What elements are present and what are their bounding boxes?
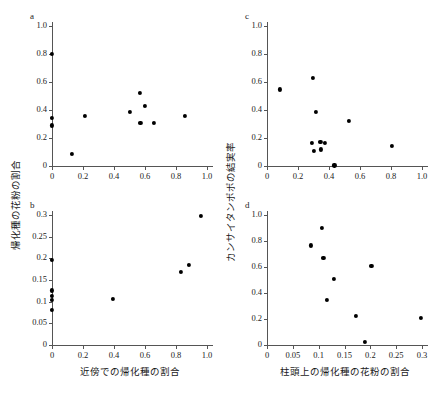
data-point [325, 298, 329, 302]
x-ticklabel-a-4: 0.8 [161, 172, 191, 181]
data-point [390, 144, 394, 148]
y-ticklabel-a-1: 0.2 [14, 133, 47, 142]
y-ticklabel-a-5: 1.0 [14, 21, 47, 30]
y-ticklabel-c-1: 0.2 [229, 133, 262, 142]
y-ticklabel-b-0: 0 [14, 340, 47, 349]
x-tick-d-6 [422, 346, 423, 349]
data-point [70, 152, 74, 156]
data-point [187, 263, 191, 267]
x-tick-c-2 [329, 167, 330, 170]
x-tick-b-2 [114, 346, 115, 349]
x-axis-line-a [52, 166, 213, 167]
x-tick-a-5 [207, 167, 208, 170]
x-ticklabel-c-0: 0 [252, 172, 282, 181]
y-ticklabel-c-5: 1.0 [229, 21, 262, 30]
x-tick-b-0 [52, 346, 53, 349]
x-ticklabel-c-3: 0.6 [345, 172, 375, 181]
x-ticklabel-b-5: 1.0 [192, 351, 222, 360]
panel-letter-b: b [30, 201, 35, 210]
y-tick-b-6 [49, 215, 52, 216]
data-point [199, 214, 203, 218]
y-axis-line-d [267, 211, 268, 345]
y-axis-title-right: カンサイタンポポの結実率 [227, 142, 237, 262]
data-point [363, 340, 367, 344]
y-tick-c-1 [264, 138, 267, 139]
data-point [143, 104, 147, 108]
data-point [321, 256, 325, 260]
y-ticklabel-b-4: 0.2 [14, 253, 47, 262]
data-point [354, 314, 358, 318]
x-tick-a-4 [176, 167, 177, 170]
x-tick-b-5 [207, 346, 208, 349]
y-tick-c-5 [264, 26, 267, 27]
y-axis-line-c [267, 22, 268, 166]
x-ticklabel-b-0: 0 [37, 351, 67, 360]
x-ticklabel-b-1: 0.2 [68, 351, 98, 360]
data-point [137, 90, 141, 94]
x-axis-line-c [267, 166, 428, 167]
y-axis-line-a [52, 22, 53, 166]
x-ticklabel-c-4: 0.8 [376, 172, 406, 181]
data-point [323, 141, 327, 145]
x-tick-d-5 [396, 346, 397, 349]
x-tick-d-3 [345, 346, 346, 349]
data-point [319, 147, 323, 151]
y-tick-d-4 [264, 241, 267, 242]
x-ticklabel-b-2: 0.4 [99, 351, 129, 360]
x-tick-b-1 [83, 346, 84, 349]
x-tick-b-3 [145, 346, 146, 349]
data-point [50, 258, 54, 262]
data-point [50, 52, 54, 56]
y-ticklabel-b-3: 0.15 [14, 275, 47, 284]
y-tick-b-3 [49, 280, 52, 281]
x-tick-c-3 [360, 167, 361, 170]
y-ticklabel-a-3: 0.6 [14, 77, 47, 86]
y-axis-line-b [52, 211, 53, 345]
x-tick-a-3 [145, 167, 146, 170]
x-axis-title-right: 柱頭上の帰化種の花粉の割合 [247, 368, 430, 378]
y-tick-c-2 [264, 110, 267, 111]
y-ticklabel-d-0: 0 [229, 340, 262, 349]
x-tick-a-2 [114, 167, 115, 170]
y-tick-a-3 [49, 82, 52, 83]
x-tick-d-2 [319, 346, 320, 349]
data-point [50, 116, 54, 120]
data-point [182, 114, 186, 118]
data-point [369, 264, 373, 268]
x-axis-title-left: 近傍での帰化種の割合 [32, 368, 227, 378]
x-tick-a-0 [52, 167, 53, 170]
x-ticklabel-d-6: 0.3 [407, 351, 430, 360]
data-point [50, 123, 54, 127]
data-point [419, 316, 423, 320]
x-tick-c-0 [267, 167, 268, 170]
y-tick-b-1 [49, 323, 52, 324]
panel-letter-d: d [245, 201, 250, 210]
x-tick-d-4 [370, 346, 371, 349]
y-tick-c-3 [264, 82, 267, 83]
x-tick-c-1 [298, 167, 299, 170]
x-ticklabel-b-4: 0.8 [161, 351, 191, 360]
figure-canvas: a00.20.40.60.81.000.20.40.60.81.0b00.050… [0, 0, 430, 399]
y-tick-d-1 [264, 319, 267, 320]
x-ticklabel-c-2: 0.4 [314, 172, 344, 181]
data-point [50, 308, 54, 312]
y-tick-b-2 [49, 302, 52, 303]
y-tick-a-2 [49, 110, 52, 111]
data-point [309, 243, 313, 247]
data-point [347, 119, 351, 123]
data-point [50, 288, 54, 292]
x-ticklabel-a-0: 0 [37, 172, 67, 181]
x-ticklabel-c-1: 0.2 [283, 172, 313, 181]
data-point [82, 114, 86, 118]
y-ticklabel-d-2: 0.4 [229, 288, 262, 297]
data-point [320, 226, 324, 230]
x-ticklabel-a-2: 0.4 [99, 172, 129, 181]
y-ticklabel-d-1: 0.2 [229, 314, 262, 323]
x-axis-line-d [267, 345, 428, 346]
data-point [179, 270, 183, 274]
x-tick-b-4 [176, 346, 177, 349]
x-ticklabel-a-1: 0.2 [68, 172, 98, 181]
data-point [314, 110, 318, 114]
data-point [311, 75, 315, 79]
x-ticklabel-b-3: 0.6 [130, 351, 160, 360]
